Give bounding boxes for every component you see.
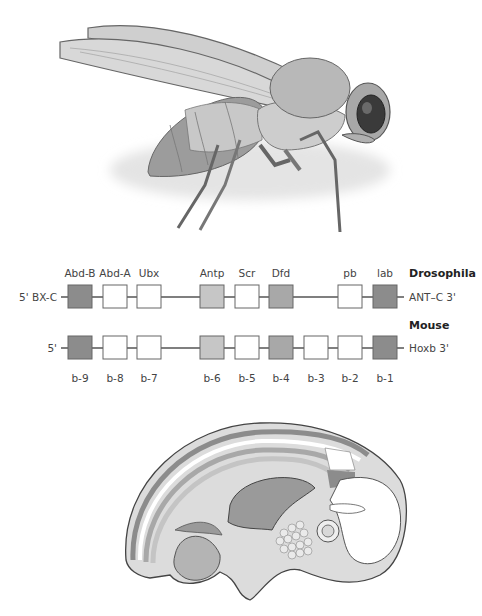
gene-label-b-2: b-2: [341, 372, 358, 384]
gene-label-abd-b: Abd-B: [64, 267, 95, 279]
gene-label-b-5: b-5: [238, 372, 255, 384]
gene-label-b-8: b-8: [106, 372, 123, 384]
gene-box-dfd: [269, 285, 293, 308]
drosophila-left-label: 5' BX-C: [19, 291, 57, 303]
gene-label-pb: pb: [343, 267, 357, 279]
gene-box-scr: [235, 285, 259, 308]
gene-box-b-8: [103, 336, 127, 359]
gene-box-ubx: [137, 285, 161, 308]
gene-box-b-7: [137, 336, 161, 359]
gene-label-b-9: b-9: [71, 372, 88, 384]
gene-box-lab: [373, 285, 397, 308]
gene-label-scr: Scr: [239, 267, 256, 279]
gene-box-b-9: [68, 336, 92, 359]
gene-box-abd-b: [68, 285, 92, 308]
drosophila-gene-row: 5' BX-C ANT–C 3' Drosophila Abd-BAbd-AUb…: [19, 267, 476, 308]
gene-label-b-3: b-3: [307, 372, 324, 384]
drosophila-illustration: [0, 0, 482, 250]
gene-label-lab: lab: [377, 267, 393, 279]
mouse-embryo-illustration: [0, 390, 482, 616]
mouse-left-label: 5': [47, 342, 57, 354]
fly-drawing: [0, 0, 482, 250]
gene-box-b-3: [304, 336, 328, 359]
mouse-right-label: Hoxb 3': [409, 342, 449, 354]
gene-label-b-1: b-1: [376, 372, 393, 384]
gene-label-abd-a: Abd-A: [99, 267, 131, 279]
gene-label-b-4: b-4: [272, 372, 289, 384]
gene-label-dfd: Dfd: [272, 267, 290, 279]
gene-box-abd-a: [103, 285, 127, 308]
mouse-gene-row: 5' Hoxb 3' Mouse b-9b-8b-7b-6b-5b-4b-3b-…: [47, 319, 449, 384]
gene-box-b-5: [235, 336, 259, 359]
gene-label-b-6: b-6: [203, 372, 220, 384]
gene-box-b-1: [373, 336, 397, 359]
gene-box-b-6: [200, 336, 224, 359]
mouse-title: Mouse: [409, 319, 449, 332]
gene-label-ubx: Ubx: [139, 267, 160, 279]
gene-label-antp: Antp: [200, 267, 225, 279]
hox-gene-map: 5' BX-C ANT–C 3' Drosophila Abd-BAbd-AUb…: [0, 250, 482, 400]
drosophila-right-label: ANT–C 3': [409, 291, 456, 303]
drosophila-title: Drosophila: [409, 267, 476, 280]
gene-box-b-4: [269, 336, 293, 359]
gene-label-b-7: b-7: [140, 372, 157, 384]
gene-box-antp: [200, 285, 224, 308]
gene-box-pb: [338, 285, 362, 308]
gene-map-drawing: 5' BX-C ANT–C 3' Drosophila Abd-BAbd-AUb…: [0, 250, 482, 400]
embryo-drawing: [120, 390, 450, 616]
gene-box-b-2: [338, 336, 362, 359]
